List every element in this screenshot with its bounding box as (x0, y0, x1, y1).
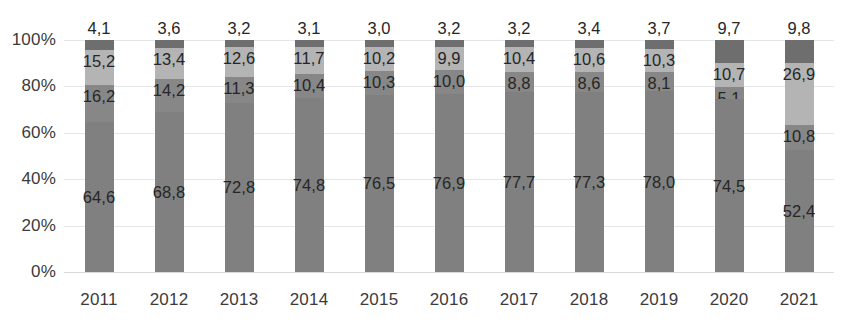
bar-2014[interactable]: 3,111,710,474,8 (295, 40, 324, 272)
y-axis-tick-label: 60% (21, 123, 56, 143)
bar-segment[interactable]: 74,8 (295, 98, 324, 272)
bar-segment[interactable]: 10,8 (785, 125, 814, 150)
stacked-bar-chart: 0%20%40%60%80%100% 4,115,216,264,63,613,… (0, 0, 841, 327)
bar-2013[interactable]: 3,212,611,372,8 (225, 40, 254, 272)
bar-segment-value-label: 64,6 (83, 189, 116, 206)
bar-slot: 3,613,414,268,8 (134, 40, 204, 272)
bar-segment-value-label: 10,7 (713, 66, 746, 83)
bar-segment[interactable]: 3,2 (225, 40, 254, 47)
bar-segment-value-label: 9,9 (437, 50, 460, 67)
y-axis-tick-label: 100% (12, 30, 56, 50)
bar-segment[interactable]: 68,8 (155, 112, 184, 272)
bar-slot: 3,710,38,178,0 (624, 40, 694, 272)
bar-slot: 3,010,210,376,5 (344, 40, 414, 272)
bar-segment[interactable]: 10,6 (575, 48, 604, 73)
bar-segment[interactable]: 26,9 (785, 63, 814, 125)
bar-segment[interactable]: 16,2 (85, 85, 114, 123)
bar-segment[interactable]: 3,7 (645, 40, 674, 49)
bar-segment-value-label: 12,6 (223, 50, 256, 67)
y-axis-tick-label: 40% (21, 169, 56, 189)
x-axis-slot: 2018 (554, 276, 624, 316)
bar-segment[interactable]: 64,6 (85, 122, 114, 272)
bar-2016[interactable]: 3,29,910,076,9 (435, 40, 464, 272)
bar-segment[interactable]: 76,9 (435, 94, 464, 272)
bar-slot: 3,410,68,677,3 (554, 40, 624, 272)
bar-slot: 4,115,216,264,6 (64, 40, 134, 272)
bar-segment-value-label: 68,8 (153, 184, 186, 201)
x-axis-slot: 2013 (204, 276, 274, 316)
bar-segment[interactable]: 74,5 (715, 99, 744, 272)
bar-segment[interactable]: 8,6 (575, 72, 604, 92)
bar-segment-value-label: 10,4 (503, 50, 536, 67)
bar-segment-value-label: 16,2 (83, 88, 116, 105)
bar-slot: 3,210,48,877,7 (484, 40, 554, 272)
bar-2018[interactable]: 3,410,68,677,3 (575, 40, 604, 272)
bar-segment[interactable]: 72,8 (225, 103, 254, 272)
bar-slot: 9,710,75,174,5 (694, 40, 764, 272)
bar-2021[interactable]: 9,826,910,852,4 (785, 40, 814, 272)
bar-segment[interactable]: 10,4 (505, 47, 534, 71)
bar-segment[interactable]: 3,2 (435, 40, 464, 47)
bar-segment[interactable]: 14,2 (155, 79, 184, 112)
bar-segment[interactable]: 3,0 (365, 40, 394, 47)
bar-segment-value-label: 10,3 (643, 52, 676, 69)
bar-segment-value-label: 3,7 (647, 20, 670, 37)
bar-segment[interactable]: 77,7 (505, 92, 534, 272)
bar-segment-value-label: 10,4 (293, 77, 326, 94)
bar-segment-value-label: 76,9 (433, 175, 466, 192)
bar-segment-value-label: 13,4 (153, 51, 186, 68)
x-axis-tick-label: 2011 (80, 276, 117, 310)
bar-2012[interactable]: 3,613,414,268,8 (155, 40, 184, 272)
bar-2015[interactable]: 3,010,210,376,5 (365, 40, 394, 272)
x-axis-tick-label: 2012 (150, 276, 189, 310)
bar-segment[interactable]: 3,6 (155, 40, 184, 48)
gridline (64, 272, 834, 273)
x-axis-slot: 2016 (414, 276, 484, 316)
bar-segment[interactable]: 4,1 (85, 40, 114, 50)
bar-segment[interactable]: 52,4 (785, 150, 814, 272)
bar-2020[interactable]: 9,710,75,174,5 (715, 40, 744, 272)
bar-segment-value-label: 8,1 (647, 75, 670, 92)
bar-segment[interactable]: 76,5 (365, 95, 394, 272)
bar-segment[interactable]: 10,3 (365, 71, 394, 95)
bar-segment[interactable]: 9,7 (715, 40, 744, 63)
x-axis-slot: 2019 (624, 276, 694, 316)
bar-segment[interactable]: 11,3 (225, 77, 254, 103)
bar-segment[interactable]: 13,4 (155, 48, 184, 79)
bar-segment[interactable]: 3,1 (295, 40, 324, 47)
bar-segment-value-label: 10,8 (783, 128, 816, 145)
bar-2019[interactable]: 3,710,38,178,0 (645, 40, 674, 272)
bar-segment[interactable]: 8,1 (645, 72, 674, 91)
bar-segment-value-label: 74,5 (713, 178, 746, 195)
x-axis-tick-label: 2015 (360, 276, 399, 310)
bar-segment[interactable]: 5,1 (715, 87, 744, 99)
bar-segment[interactable]: 77,3 (575, 92, 604, 271)
bar-segment-value-label: 76,5 (363, 175, 396, 192)
bar-2011[interactable]: 4,115,216,264,6 (85, 40, 114, 272)
bar-segment[interactable]: 10,7 (715, 63, 744, 88)
x-axis-tick-label: 2018 (570, 276, 609, 310)
bar-segment[interactable]: 12,6 (225, 47, 254, 76)
y-axis-tick-label: 20% (21, 216, 56, 236)
bar-segment[interactable]: 9,9 (435, 47, 464, 70)
bar-segment[interactable]: 10,4 (295, 74, 324, 98)
bar-segment[interactable]: 3,2 (505, 40, 534, 47)
bar-segment[interactable]: 3,4 (575, 40, 604, 48)
bar-segment[interactable]: 9,8 (785, 40, 814, 63)
bar-segment[interactable]: 15,2 (85, 50, 114, 85)
bar-2017[interactable]: 3,210,48,877,7 (505, 40, 534, 272)
x-axis-slot: 2021 (764, 276, 834, 316)
x-axis-slot: 2020 (694, 276, 764, 316)
y-axis-tick-label: 80% (21, 76, 56, 96)
y-axis-tick-label: 0% (31, 262, 56, 282)
bar-segment-value-label: 11,3 (223, 80, 254, 97)
bar-segment[interactable]: 8,8 (505, 72, 534, 92)
bar-segment[interactable]: 10,0 (435, 70, 464, 93)
bar-segment[interactable]: 78,0 (645, 91, 674, 272)
bar-segment-value-label: 10,0 (433, 73, 466, 90)
bar-segment-value-label: 3,4 (577, 20, 600, 37)
bar-segment[interactable]: 10,3 (645, 49, 674, 73)
bar-segment-value-label: 3,2 (227, 20, 250, 37)
bar-segment[interactable]: 10,2 (365, 47, 394, 71)
bar-segment[interactable]: 11,7 (295, 47, 324, 74)
